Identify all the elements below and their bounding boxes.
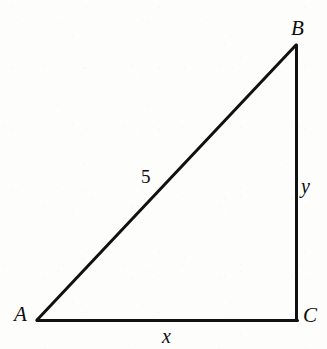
side-label-y: y	[301, 176, 310, 196]
triangle-drawing	[0, 0, 327, 349]
side-label-hypotenuse: 5	[141, 167, 151, 186]
edge-hypotenuse-ab	[37, 45, 296, 320]
vertex-label-b: B	[291, 18, 304, 39]
vertex-label-c: C	[303, 305, 317, 326]
vertex-label-a: A	[14, 304, 27, 325]
side-label-x: x	[162, 326, 171, 346]
triangle-figure: B A C 5 y x	[0, 0, 327, 349]
